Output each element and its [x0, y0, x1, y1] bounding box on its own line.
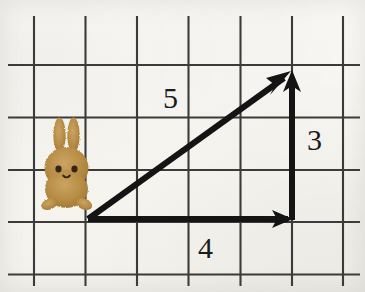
hypotenuse-vector [88, 71, 291, 219]
vertical-vector [283, 70, 301, 220]
figure-canvas: 5 3 4 [0, 0, 365, 292]
horizontal-vector [88, 210, 293, 228]
hypotenuse-vector-shaft [88, 78, 284, 219]
vertical-length-label: 3 [307, 125, 322, 155]
hypotenuse-length-label: 5 [163, 83, 178, 113]
horizontal-length-label: 4 [198, 233, 213, 263]
